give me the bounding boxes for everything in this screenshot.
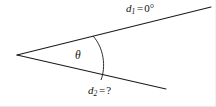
upper-ray-label-variable: d [126,2,132,14]
theta-label: θ [75,50,81,62]
angle-diagram-figure: d1=0° d2=? θ [0,0,216,107]
upper-ray-label: d1=0° [126,3,154,16]
lower-ray-label-variable: d [88,84,94,96]
lower-ray-label-value: ? [106,84,111,96]
upper-ray-line [17,7,211,55]
upper-ray-label-value: 0° [144,2,154,14]
lower-ray-label: d2=? [88,85,111,98]
